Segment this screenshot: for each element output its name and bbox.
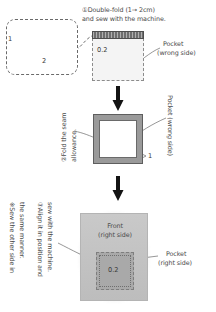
stitched-hem-band: [92, 31, 144, 39]
step3-note-line2: the same manner.: [18, 202, 26, 259]
pocket-label-step3-line2: (right side): [158, 259, 192, 267]
instruction-diagram: 1 2 ①Double-fold (1→ 2cm) and sew with t…: [0, 0, 216, 312]
pocket-label-step3-line1: Pocket: [166, 250, 186, 258]
pocket-folded-square-inner: [99, 120, 137, 158]
pocket-label-step2: Pocket (wrong side): [166, 95, 174, 156]
flow-arrow-1: [112, 86, 124, 116]
detail-label-1: 1: [8, 35, 12, 43]
measure-label-02-step3: 0.2: [108, 266, 119, 274]
step2-instruction-line2: allowance.: [70, 129, 78, 162]
step3-instruction-line2: sew with the machine.: [46, 202, 54, 272]
step3-instruction-line1: ③Align it in position and: [36, 202, 44, 277]
flow-arrow-2: [112, 176, 124, 206]
pocket-label-step1-line2: (wrong side): [157, 49, 196, 57]
step2-instruction-line1: ②Fold the seam: [60, 113, 68, 162]
measure-label-02-step1: 0.2: [97, 46, 108, 54]
fold-detail-box: [6, 19, 78, 75]
detail-label-2: 2: [42, 57, 46, 65]
pocket-label-step1-line1: Pocket: [163, 40, 183, 48]
front-label-line1: Front: [89, 222, 141, 230]
step3-note-line1: ※Sew the other side in: [8, 202, 16, 273]
step1-instruction-line2: and sew with the machine.: [82, 15, 166, 23]
step2-edge-label-1: 1: [148, 152, 152, 160]
front-label-line2: (right side): [89, 231, 141, 239]
step1-instruction-line1: ①Double-fold (1→ 2cm): [82, 6, 155, 14]
stitch-texture: [93, 32, 143, 38]
pocket-piece-wrong-side-step1: [92, 33, 144, 81]
